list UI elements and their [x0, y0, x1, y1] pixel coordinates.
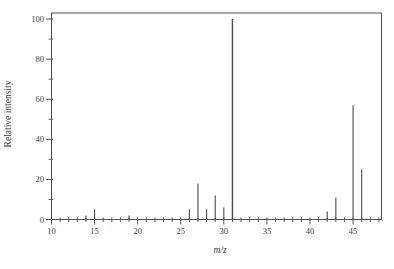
y-tick-label: 80 — [36, 54, 45, 64]
mass-spectrum-figure: 1015202530354045020406080100 m/z Relativ… — [0, 0, 394, 269]
x-axis-title: m/z — [213, 245, 227, 255]
y-tick-label: 40 — [36, 134, 45, 144]
x-tick-label: 30 — [220, 226, 229, 236]
x-tick-label: 35 — [263, 226, 272, 236]
plot-area: 1015202530354045020406080100 — [31, 13, 381, 236]
x-tick-label: 25 — [176, 226, 185, 236]
y-tick-label: 20 — [36, 174, 45, 184]
plot-border — [52, 13, 382, 220]
y-tick-label: 60 — [36, 94, 45, 104]
y-axis-title: Relative intensity — [3, 80, 13, 147]
x-tick-label: 40 — [306, 226, 315, 236]
x-tick-label: 45 — [349, 226, 358, 236]
mass-spectrum-chart: 1015202530354045020406080100 m/z Relativ… — [0, 0, 394, 269]
y-tick-label: 0 — [40, 215, 44, 225]
x-tick-label: 20 — [133, 226, 142, 236]
x-tick-label: 15 — [90, 226, 99, 236]
x-tick-label: 10 — [47, 226, 56, 236]
y-tick-label: 100 — [31, 14, 44, 24]
